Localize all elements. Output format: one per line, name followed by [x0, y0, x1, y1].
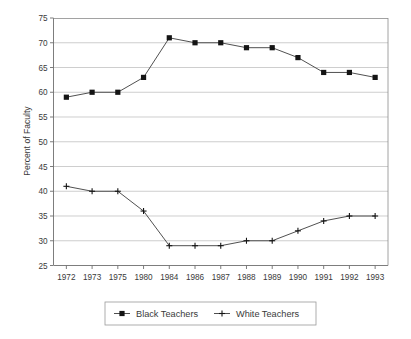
data-point	[270, 45, 275, 50]
legend-label: Black Teachers	[136, 309, 199, 319]
data-point	[373, 75, 378, 80]
data-point	[167, 35, 172, 40]
data-point	[89, 90, 94, 95]
legend-label: White Teachers	[236, 309, 300, 319]
x-tick-label: 1973	[83, 273, 102, 282]
x-tick-label: 1980	[134, 273, 153, 282]
y-tick-label: 40	[38, 187, 48, 196]
legend-marker	[119, 311, 124, 316]
y-tick-label: 75	[38, 14, 48, 23]
data-point	[347, 70, 352, 75]
data-point	[295, 55, 300, 60]
data-point	[115, 90, 120, 95]
y-tick-label: 45	[38, 163, 48, 172]
y-axis-title: Percent of Faculty	[22, 106, 32, 176]
data-point	[192, 40, 197, 45]
line-chart-canvas: 2530354045505560657075 19721973197519801…	[0, 0, 411, 339]
x-tick-label: 1992	[340, 273, 359, 282]
x-tick-label: 1972	[57, 273, 76, 282]
y-tick-label: 30	[38, 237, 48, 246]
chart-figure: 2530354045505560657075 19721973197519801…	[0, 0, 411, 339]
y-tick-label: 35	[38, 212, 48, 221]
x-tick-label: 1988	[237, 273, 256, 282]
data-point	[244, 45, 249, 50]
y-tick-label: 55	[38, 113, 48, 122]
x-tick-label: 1986	[186, 273, 205, 282]
y-tick-label: 60	[38, 88, 48, 97]
data-point	[321, 70, 326, 75]
y-tick-label: 70	[38, 39, 48, 48]
data-point	[141, 75, 146, 80]
chart-legend: Black TeachersWhite Teachers	[105, 302, 316, 325]
data-point	[218, 40, 223, 45]
y-tick-label: 65	[38, 64, 48, 73]
x-tick-label: 1987	[212, 273, 231, 282]
data-point	[64, 95, 69, 100]
x-tick-label: 1975	[109, 273, 128, 282]
x-tick-label: 1991	[315, 273, 334, 282]
x-tick-label: 1993	[366, 273, 385, 282]
y-tick-label: 25	[38, 262, 48, 271]
x-tick-label: 1989	[263, 273, 282, 282]
chart-background	[0, 0, 411, 339]
y-tick-label: 50	[38, 138, 48, 147]
x-tick-label: 1990	[289, 273, 308, 282]
x-tick-label: 1984	[160, 273, 179, 282]
